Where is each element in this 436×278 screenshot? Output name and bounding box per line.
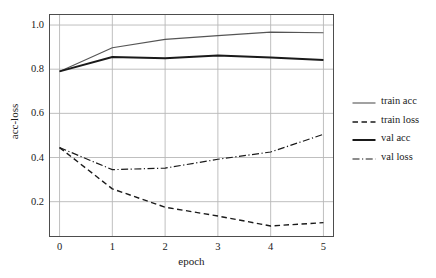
- x-axis-title: epoch: [49, 256, 334, 267]
- legend-swatch-val-loss-icon: [352, 151, 376, 163]
- y-tick-label-0: 1.0: [31, 20, 44, 31]
- legend-label-0: train acc: [381, 96, 417, 107]
- series-lines: [60, 32, 324, 226]
- plot-area: [49, 14, 334, 237]
- horizontal-gridlines: [49, 25, 334, 202]
- x-tick-label-1: 1: [110, 242, 115, 253]
- x-tick-label-2: 2: [162, 242, 167, 253]
- x-tick-label-4: 4: [268, 242, 273, 253]
- legend-label-3: val loss: [381, 152, 413, 163]
- x-tick-label-3: 3: [215, 242, 220, 253]
- legend-label-1: train loss: [381, 115, 419, 126]
- y-tick-label-4: 0.2: [31, 197, 44, 208]
- chart-svg: [49, 14, 334, 237]
- legend-swatch-val-acc-icon: [352, 132, 376, 144]
- legend-label-2: val acc: [381, 133, 410, 144]
- x-tick-label-0: 0: [57, 242, 62, 253]
- x-axis-tick-labels: 012345: [0, 242, 436, 256]
- y-tick-label-3: 0.4: [31, 153, 44, 164]
- legend-item-val-acc[interactable]: val acc: [352, 129, 436, 148]
- x-tick-label-5: 5: [321, 242, 326, 253]
- y-axis-title: acc-loss: [9, 92, 20, 152]
- series-line-val-loss: [60, 134, 324, 169]
- chart-figure: 1.00.80.60.40.2 012345 epoch acc-loss tr…: [0, 0, 436, 278]
- legend-item-train-loss[interactable]: train loss: [352, 111, 436, 130]
- legend-item-val-loss[interactable]: val loss: [352, 148, 436, 167]
- legend-item-train-acc[interactable]: train acc: [352, 92, 436, 111]
- chart-legend: train acctrain lossval accval loss: [352, 92, 436, 166]
- vertical-gridlines: [60, 14, 324, 237]
- legend-swatch-train-acc-icon: [352, 95, 376, 107]
- y-tick-label-1: 0.8: [31, 64, 44, 75]
- series-line-train-loss: [60, 148, 324, 226]
- series-line-train-acc: [60, 32, 324, 71]
- legend-swatch-train-loss-icon: [352, 114, 376, 126]
- y-tick-label-2: 0.6: [31, 108, 44, 119]
